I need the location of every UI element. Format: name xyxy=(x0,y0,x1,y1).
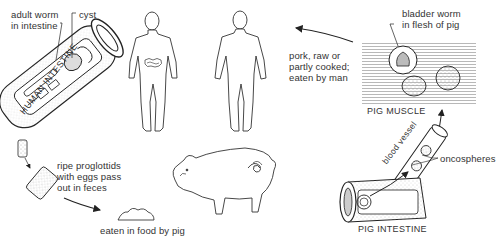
tapeworm-lifecycle-diagram: adult worm in intestine cyst HUMAN INTES… xyxy=(0,0,497,242)
proglottids-label: ripe proglottids with eggs pass out in f… xyxy=(57,160,121,193)
eaten-by-pig-label: eaten in food by pig xyxy=(100,225,185,236)
proglottid-segments xyxy=(18,140,59,200)
bladder-worm-label: bladder worm in flesh of pig xyxy=(402,8,461,30)
cyst-label: cyst xyxy=(79,9,96,20)
adult-worm-label: adult worm in intestine xyxy=(11,9,58,31)
pork-eaten-label: pork, raw or partly cooked; eaten by man xyxy=(289,50,350,83)
arrow-to-human xyxy=(296,28,353,42)
human-intestine-illustration xyxy=(0,14,129,136)
pig-intestine-caption: PIG INTESTINE xyxy=(358,224,427,234)
pig-muscle-illustration xyxy=(362,24,476,104)
diagram-illustrations xyxy=(0,0,497,242)
human-figure-infected xyxy=(129,12,177,131)
human-figure xyxy=(215,11,266,131)
arrow-to-food xyxy=(64,198,100,210)
oncospheres-label: oncospheres xyxy=(440,153,496,164)
pig-illustration xyxy=(173,148,276,214)
pig-intestine-illustration xyxy=(340,172,426,222)
pig-muscle-caption: PIG MUSCLE xyxy=(367,106,426,116)
food-lump-illustration xyxy=(118,208,154,220)
